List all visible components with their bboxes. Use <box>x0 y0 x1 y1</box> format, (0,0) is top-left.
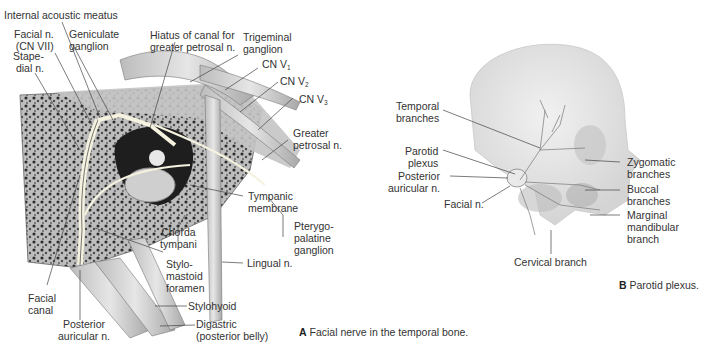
label-cn-v3-subscript: 3 <box>324 99 328 106</box>
label-tympanic-membrane: Tympanic membrane <box>248 190 298 214</box>
label-cn-v3: CN V3 <box>299 93 328 109</box>
label-buccal-branches: Buccal branches <box>627 183 670 207</box>
caption-b-text: Parotid plexus. <box>630 279 699 291</box>
label-cn-v3-text: CN V <box>299 93 324 105</box>
label-cn-v1-text: CN V <box>262 58 287 70</box>
label-temporal-branches: Temporal branches <box>396 100 439 124</box>
label-internal-acoustic-meatus: Internal acoustic meatus <box>4 9 118 21</box>
label-cn-v2: CN V2 <box>280 75 309 91</box>
label-greater-petrosal-nerve: Greater petrosal n. <box>293 127 342 151</box>
label-cn-v1: CN V1 <box>262 58 291 74</box>
label-pterygopalatine-ganglion: Pterygo- palatine ganglion <box>294 220 334 256</box>
caption-figure-a: A Facial nerve in the temporal bone. <box>299 326 468 338</box>
label-facial-nerve-b: Facial n. <box>444 198 484 210</box>
label-cn-v1-subscript: 1 <box>287 64 291 71</box>
figure-page: Internal acoustic meatus Facial n. (CN V… <box>0 0 706 351</box>
label-facial-canal: Facial canal <box>28 292 56 316</box>
label-facial-nerve-cn-vii: Facial n. (CN VII) <box>14 28 54 52</box>
label-cn-v2-subscript: 2 <box>305 81 309 88</box>
label-parotid-plexus: Parotid plexus <box>405 145 438 169</box>
label-posterior-auricular-nerve-a: Posterior auricular n. <box>58 318 110 342</box>
leader-lines <box>0 0 706 351</box>
label-zygomatic-branches: Zygomatic branches <box>627 156 675 180</box>
caption-figure-b: B Parotid plexus. <box>619 279 699 291</box>
label-stapedial-nerve: Stape- dial n. <box>13 50 44 74</box>
label-geniculate-ganglion: Geniculate ganglion <box>69 28 119 52</box>
caption-a-letter: A <box>299 326 307 338</box>
label-stylohyoid: Stylohyoid <box>188 300 236 312</box>
label-cn-v2-text: CN V <box>280 75 305 87</box>
label-digastric-posterior-belly: Digastric (posterior belly) <box>196 318 268 342</box>
label-posterior-auricular-nerve-b: Posterior auricular n. <box>388 170 440 194</box>
label-lingual-nerve: Lingual n. <box>247 257 293 269</box>
label-cervical-branch: Cervical branch <box>514 256 587 268</box>
label-hiatus-greater-petrosal-canal: Hiatus of canal for greater petrosal n. <box>150 29 235 53</box>
caption-a-text: Facial nerve in the temporal bone. <box>310 326 469 338</box>
label-chorda-tympani: Chorda tympani <box>160 226 197 250</box>
label-trigeminal-ganglion: Trigeminal ganglion <box>243 31 292 55</box>
label-marginal-mandibular-branch: Marginal mandibular branch <box>627 209 679 245</box>
caption-b-letter: B <box>619 279 627 291</box>
label-stylomastoid-foramen: Stylo- mastoid foramen <box>166 258 205 294</box>
